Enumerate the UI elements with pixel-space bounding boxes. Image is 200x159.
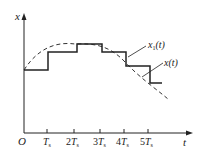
svg-text:3Ts: 3Ts [93,136,107,148]
x1-label: x1(t) [147,39,166,51]
svg-text:5Ts: 5Ts [140,136,154,148]
tick-labels: Ts 2Ts 3Ts 4Ts 5Ts [43,136,154,148]
sampling-diagram: x t O Ts 2Ts 3Ts 4Ts 5Ts x1(t) x(t) [0,0,200,159]
x-ticks [47,129,148,133]
y-axis-arrow-icon [22,13,27,20]
x-axis-label: t [183,136,187,148]
leader-line-x1 [128,46,146,57]
svg-text:Ts: Ts [43,136,52,148]
x-label: x(t) [163,57,179,69]
svg-text:4Ts: 4Ts [116,136,130,148]
axes [22,13,194,136]
y-axis-label: x [14,10,20,22]
origin-label: O [18,135,26,147]
svg-text:2Ts: 2Ts [66,136,80,148]
leader-line-x [142,63,163,77]
continuous-signal-x [24,43,168,99]
x-axis-arrow-icon [186,131,193,136]
